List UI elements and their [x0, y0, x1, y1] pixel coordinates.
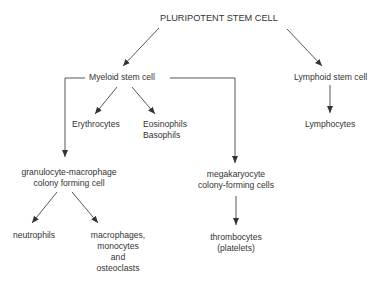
- node-thrombocytes: thrombocytes (platelets): [206, 232, 266, 254]
- gm-cfc-line1: granulocyte-macrophage: [17, 167, 121, 178]
- node-lymphoid-stem-cell: Lymphoid stem cell: [294, 72, 367, 83]
- node-eosinophils-basophils: Eosinophils Basophils: [143, 119, 187, 141]
- diagram-connectors: [0, 0, 382, 284]
- basophils-label: Basophils: [143, 130, 187, 141]
- macrophages-line1: macrophages,: [88, 230, 148, 241]
- node-lymphocytes: Lymphocytes: [305, 119, 355, 130]
- node-neutrophils: neutrophils: [13, 230, 55, 241]
- macrophages-line3: and: [88, 252, 148, 263]
- mk-cfc-line2: colony-forming cells: [186, 180, 286, 191]
- macrophages-line2: monocytes: [88, 241, 148, 252]
- node-granulocyte-macrophage-cfc: granulocyte-macrophage colony forming ce…: [17, 167, 121, 189]
- node-macrophages-monocytes-osteoclasts: macrophages, monocytes and osteoclasts: [88, 230, 148, 274]
- eosinophils-label: Eosinophils: [143, 119, 187, 130]
- mk-cfc-line1: megakaryocyte: [186, 169, 286, 180]
- myeloid-bracket-left: [65, 78, 85, 157]
- thrombocytes-line1: thrombocytes: [206, 232, 266, 243]
- node-erythrocytes: Erythrocytes: [72, 119, 120, 130]
- arrow-gm-to-neutrophils: [32, 192, 57, 223]
- arrow-myeloid-to-eosinophils: [132, 87, 155, 114]
- arrow-root-to-lymphoid: [287, 29, 322, 66]
- gm-cfc-line2: colony forming cell: [17, 178, 121, 189]
- cropped-heading-fragment: [98, 0, 101, 4]
- macrophages-line4: osteoclasts: [88, 263, 148, 274]
- arrow-gm-to-macrophages: [72, 192, 98, 223]
- arrow-root-to-myeloid: [123, 28, 159, 66]
- node-megakaryocyte-cfc: megakaryocyte colony-forming cells: [186, 169, 286, 191]
- thrombocytes-line2: (platelets): [206, 243, 266, 254]
- arrow-myeloid-to-erythrocytes: [95, 87, 117, 114]
- node-myeloid-stem-cell: Myeloid stem cell: [89, 72, 155, 83]
- node-pluripotent-stem-cell: PLURIPOTENT STEM CELL: [160, 13, 278, 24]
